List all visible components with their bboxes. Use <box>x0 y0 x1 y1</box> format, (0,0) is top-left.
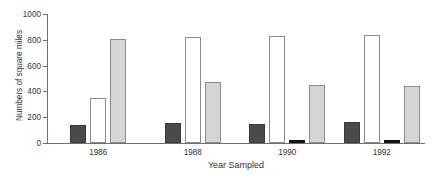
y-tick-mark <box>43 117 47 118</box>
y-tick-mark <box>43 14 47 15</box>
bar-1986-series-1 <box>70 125 86 143</box>
y-axis-line <box>47 14 48 144</box>
bar-1986-series-4 <box>110 39 126 143</box>
chart-title-cropped <box>0 0 432 7</box>
y-tick-mark <box>43 143 47 144</box>
y-tick-label: 1000 <box>23 10 41 19</box>
x-axis-line <box>47 143 425 144</box>
bar-1990-series-4 <box>309 85 325 143</box>
x-group-label-1992: 1992 <box>373 148 391 157</box>
y-tick-label: 800 <box>27 35 41 44</box>
y-axis-title: Numbers of square miles <box>15 6 24 146</box>
bar-1988-series-2 <box>185 37 201 143</box>
bar-1988-series-1 <box>165 123 181 143</box>
y-tick-label: 600 <box>27 61 41 70</box>
y-tick-label: 0 <box>36 139 41 148</box>
bar-chart: Numbers of square miles 0200400600800100… <box>0 0 432 180</box>
bar-1990-series-2 <box>269 36 285 143</box>
y-tick-label: 200 <box>27 113 41 122</box>
y-tick-mark <box>43 40 47 41</box>
plot-area: 02004006008001000 1986198819901992 <box>47 14 425 143</box>
y-tick-mark <box>43 91 47 92</box>
bar-1992-series-3 <box>384 140 400 143</box>
bar-1990-series-1 <box>249 124 265 143</box>
bar-1992-series-1 <box>344 122 360 143</box>
bar-1992-series-2 <box>364 35 380 143</box>
x-group-label-1990: 1990 <box>278 148 296 157</box>
y-tick-label: 400 <box>27 87 41 96</box>
bar-1988-series-4 <box>205 82 221 143</box>
x-axis-title: Year Sampled <box>47 160 425 170</box>
x-group-label-1988: 1988 <box>184 148 202 157</box>
y-tick-mark <box>43 66 47 67</box>
bar-1990-series-3 <box>289 140 305 143</box>
bar-1992-series-4 <box>404 86 420 143</box>
bar-1986-series-2 <box>90 98 106 143</box>
x-group-label-1986: 1986 <box>89 148 107 157</box>
